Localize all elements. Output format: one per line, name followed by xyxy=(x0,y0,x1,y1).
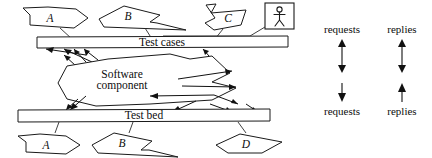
legend-bottom-replies-label: replies xyxy=(387,105,416,117)
legend-bottom-replies: replies xyxy=(387,83,416,117)
bar-test-cases-label: Test cases xyxy=(139,36,186,48)
node-b-top-label: B xyxy=(124,10,131,22)
legend-bottom-requests-label: requests xyxy=(324,105,360,117)
node-a-top-label: A xyxy=(45,12,54,24)
node-c-top-label: C xyxy=(224,12,232,24)
node-a-top[interactable] xyxy=(23,7,88,28)
legend-top-replies-label: replies xyxy=(387,23,416,35)
node-d-bottom-label: D xyxy=(241,138,251,150)
node-a-bottom-label: A xyxy=(41,139,50,151)
legend-top-requests: requests xyxy=(324,23,360,73)
legend-top-requests-label: requests xyxy=(324,23,360,35)
component-label-line2: component xyxy=(96,79,148,92)
diagram-svg: Test cases Software component xyxy=(0,0,432,158)
connector-d-bottom xyxy=(238,122,246,133)
legend-bottom-requests: requests xyxy=(324,83,360,117)
bar-test-bed-label: Test bed xyxy=(125,109,164,121)
node-b-bottom-label: B xyxy=(118,137,125,149)
bar-test-bed[interactable]: Test bed xyxy=(18,109,270,122)
node-b-top[interactable] xyxy=(99,6,186,30)
stick-figure-actor[interactable] xyxy=(265,3,294,29)
connector-b-bottom xyxy=(129,122,133,133)
node-b-bottom[interactable] xyxy=(92,133,178,157)
legend-top-replies: replies xyxy=(387,23,416,73)
software-component[interactable]: Software component xyxy=(58,54,236,106)
connector-a-bottom xyxy=(55,122,59,133)
bar-test-cases[interactable]: Test cases xyxy=(37,36,288,49)
diagram-canvas: Test cases Software component xyxy=(0,0,432,158)
